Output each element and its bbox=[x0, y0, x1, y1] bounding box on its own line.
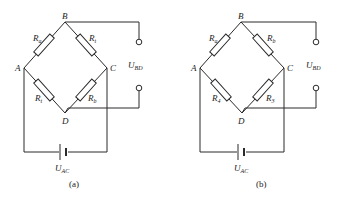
figure-caption-b: (b) bbox=[256, 179, 267, 189]
wire-a-supply bbox=[200, 68, 237, 152]
resistor-label-ad: R4 bbox=[211, 93, 221, 104]
supply-voltage-label: UAC bbox=[55, 163, 70, 174]
bridge-circuits-diagram: B A C D Ra Rt Rt Rb UBD UAC (a) B A C D … bbox=[0, 0, 337, 201]
node-label-c: C bbox=[287, 63, 294, 73]
output-terminal-d bbox=[136, 85, 142, 91]
resistor-label-cd: Rb bbox=[87, 93, 97, 104]
figure-caption-a: (a) bbox=[69, 179, 79, 189]
output-voltage-label: UBD bbox=[128, 60, 143, 71]
output-voltage-label: UBD bbox=[306, 60, 321, 71]
wire-a-supply bbox=[24, 68, 59, 152]
output-terminal-b bbox=[136, 39, 142, 45]
resistor-label-bc: Rt bbox=[88, 33, 97, 44]
node-label-a: A bbox=[14, 63, 21, 73]
resistor-label-cd: R3 bbox=[265, 93, 275, 104]
wire-b-output bbox=[241, 22, 316, 39]
resistor-label-ad: Rt bbox=[34, 93, 43, 104]
node-label-d: D bbox=[61, 116, 69, 126]
node-label-b: B bbox=[62, 11, 68, 21]
resistor-label-bc: Rb bbox=[266, 33, 276, 44]
wire-c-supply bbox=[68, 68, 107, 152]
output-terminal-b bbox=[313, 39, 319, 45]
output-terminal-d bbox=[313, 85, 319, 91]
bridge-circuit-a: B A C D Ra Rt Rt Rb UBD UAC (a) bbox=[14, 11, 143, 189]
resistor-label-ab: Ra bbox=[32, 33, 42, 44]
wire-b-output bbox=[65, 22, 139, 39]
wire-c-supply bbox=[246, 68, 284, 152]
node-label-b: B bbox=[238, 11, 244, 21]
node-label-d: D bbox=[237, 116, 245, 126]
bridge-circuit-b: B A C D Ra Rb R4 R3 UBD UAC (b) bbox=[190, 11, 321, 189]
supply-voltage-label: UAC bbox=[234, 163, 249, 174]
resistor-label-ab: Ra bbox=[208, 33, 218, 44]
node-label-c: C bbox=[110, 63, 117, 73]
node-label-a: A bbox=[190, 63, 197, 73]
